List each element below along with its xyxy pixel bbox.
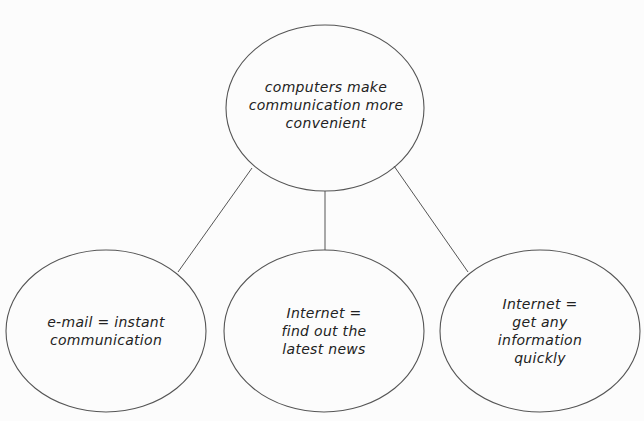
info-node-text: Internet = get any information quickly [450,285,630,377]
email-node-text: e-mail = instant communication [16,290,196,372]
news-node-text: Internet = find out the latest news [234,290,414,372]
root-node-text: computers make communication more conven… [236,60,416,150]
concept-map-canvas: computers make communication more conven… [0,0,644,421]
edge-root-to-email [178,168,252,272]
edge-root-to-info [394,166,468,272]
